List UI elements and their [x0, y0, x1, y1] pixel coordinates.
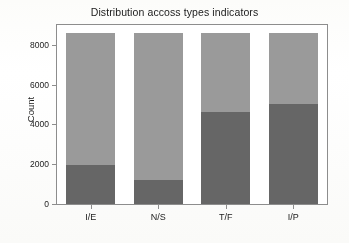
y-tick-label: 8000 — [5, 41, 49, 49]
x-tick-mark — [226, 205, 227, 209]
bar-segment-lower — [201, 112, 250, 204]
y-tick-label: 0 — [5, 200, 49, 208]
x-tick-label-t-f: T/F — [201, 212, 251, 222]
bar-segment-upper — [269, 33, 318, 104]
bar-n-s[interactable] — [134, 33, 183, 204]
bar-t-f[interactable] — [201, 33, 250, 204]
bar-segment-lower — [134, 180, 183, 204]
x-tick-mark — [158, 205, 159, 209]
y-tick-label: 2000 — [5, 160, 49, 168]
x-tick-label-i-e: I/E — [66, 212, 116, 222]
bar-segment-lower — [269, 104, 318, 204]
bar-i-e[interactable] — [66, 33, 115, 204]
x-tick-label-n-s: N/S — [133, 212, 183, 222]
y-tick-label: 4000 — [5, 120, 49, 128]
y-tick-label: 6000 — [5, 81, 49, 89]
chart-title: Distribution accoss types indicators — [0, 6, 349, 18]
bar-segment-upper — [66, 33, 115, 165]
x-tick-mark — [91, 205, 92, 209]
x-tick-label-i-p: I/P — [268, 212, 318, 222]
chart-figure: Distribution accoss types indicators Cou… — [0, 0, 349, 243]
bar-i-p[interactable] — [269, 33, 318, 204]
bars-layer — [57, 25, 327, 204]
bar-segment-lower — [66, 165, 115, 204]
bar-segment-upper — [134, 33, 183, 180]
x-tick-mark — [293, 205, 294, 209]
plot-area — [56, 24, 328, 205]
bar-segment-upper — [201, 33, 250, 112]
